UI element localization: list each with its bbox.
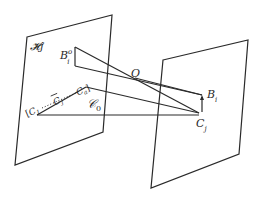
right-plane — [151, 40, 248, 188]
o-bi-line — [135, 78, 202, 95]
label-c0: 𝒞0 — [87, 97, 101, 113]
plane-label-hj: 𝓗j — [30, 40, 45, 53]
arrowhead-icon — [200, 95, 204, 100]
label-cj: Cj — [196, 117, 207, 133]
label-bi: Bi — [206, 88, 217, 104]
label-o: O — [131, 67, 140, 80]
label-bio: Boi — [59, 48, 72, 66]
diagram-canvas: 𝓗j Boi O Bi Cj 𝒞0 [C1CjCa] — [0, 0, 259, 200]
